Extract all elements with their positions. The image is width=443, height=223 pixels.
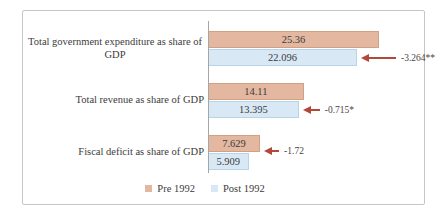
annotation-text: -1.72	[284, 146, 304, 156]
chart-figure: Total government expenditure as share of…	[0, 0, 443, 223]
bar-value-label: 25.36	[282, 34, 306, 45]
bar-pre1992-expenditure: 25.36	[209, 31, 379, 48]
category-label-revenue: Total revenue as share of GDP	[26, 83, 204, 118]
bar-post1992-deficit: 5.909	[209, 153, 249, 170]
category-label-deficit: Fiscal deficit as share of GDP	[26, 135, 204, 170]
legend: Pre 1992 Post 1992	[23, 183, 387, 194]
chart-frame: Total government expenditure as share of…	[22, 10, 425, 205]
bar-value-label: 22.096	[268, 52, 297, 63]
arrow-tail	[272, 150, 279, 152]
annotation-text: -0.715*	[325, 105, 354, 115]
bar-group-deficit: 7.629 5.909	[209, 135, 260, 170]
plot-area: 25.36 22.096 14.11 13.395 7.629	[208, 21, 422, 173]
legend-item-post1992: Post 1992	[211, 183, 265, 194]
annotation-deficit: -1.72	[264, 144, 304, 158]
annotation-revenue: -0.715*	[303, 103, 354, 117]
bar-value-label: 13.395	[239, 104, 268, 115]
legend-swatch-post1992	[211, 185, 218, 192]
legend-label: Post 1992	[223, 183, 265, 194]
bar-group-expenditure: 25.36 22.096	[209, 31, 379, 66]
bar-pre1992-deficit: 7.629	[209, 135, 260, 152]
arrow-left-icon	[361, 54, 369, 62]
arrow-tail	[311, 109, 320, 111]
arrow-tail	[369, 57, 396, 59]
legend-label: Pre 1992	[157, 183, 195, 194]
bar-value-label: 14.11	[244, 86, 267, 97]
bar-post1992-expenditure: 22.096	[209, 49, 357, 66]
category-label-expenditure: Total government expenditure as share of…	[26, 31, 204, 66]
bar-value-label: 7.629	[222, 138, 246, 149]
bar-pre1992-revenue: 14.11	[209, 83, 304, 100]
bar-post1992-revenue: 13.395	[209, 101, 299, 118]
legend-item-pre1992: Pre 1992	[145, 183, 195, 194]
arrow-left-icon	[264, 147, 272, 155]
arrow-left-icon	[303, 106, 311, 114]
bar-group-revenue: 14.11 13.395	[209, 83, 304, 118]
annotation-text: -3.264**	[401, 53, 435, 63]
annotation-expenditure: -3.264**	[361, 51, 435, 65]
legend-swatch-pre1992	[145, 185, 152, 192]
bar-value-label: 5.909	[216, 156, 240, 167]
